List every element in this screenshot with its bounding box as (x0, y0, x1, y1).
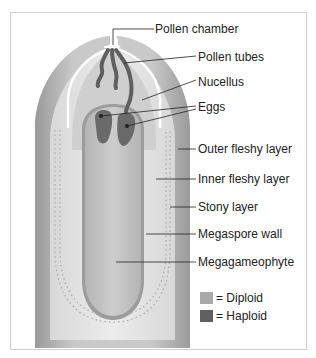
label-eggs: Eggs (198, 100, 225, 114)
legend-label-diploid: = Diploid (216, 291, 263, 305)
label-pollen-chamber: Pollen chamber (155, 22, 238, 36)
legend-swatch-haploid (200, 310, 213, 322)
legend-label-haploid: = Haploid (216, 309, 267, 323)
label-nucellus: Nucellus (198, 75, 244, 89)
legend-swatch-diploid (200, 292, 213, 304)
label-stony-layer: Stony layer (198, 200, 258, 214)
label-megaspore-wall: Megaspore wall (198, 227, 282, 241)
label-megagameophyte: Megagameophyte (198, 255, 294, 269)
label-pollen-tubes: Pollen tubes (198, 50, 264, 64)
label-inner-fleshy-layer: Inner fleshy layer (198, 172, 289, 186)
megagameophyte-shape (82, 104, 144, 320)
label-outer-fleshy-layer: Outer fleshy layer (198, 142, 292, 156)
